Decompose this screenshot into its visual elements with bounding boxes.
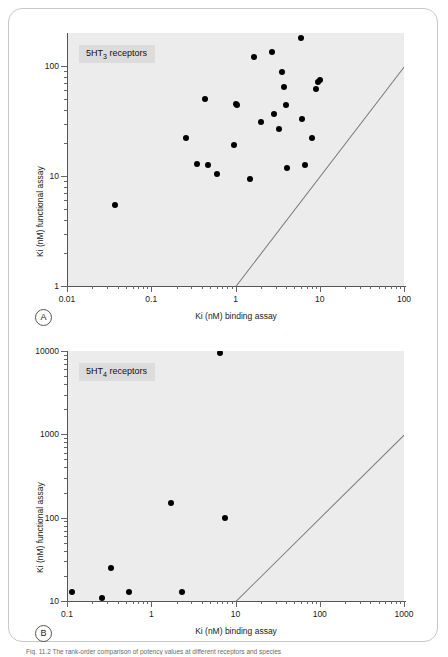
x-major-tick <box>404 601 405 607</box>
x-minor-tick <box>133 601 134 604</box>
data-point <box>217 351 223 356</box>
legend-a-prefix: 5HT <box>86 48 103 58</box>
y-minor-tick <box>64 478 67 479</box>
panel-marker-b: B <box>35 625 52 642</box>
x-minor-tick <box>276 601 277 604</box>
y-minor-tick <box>64 124 67 125</box>
x-major-tick <box>236 601 237 607</box>
x-minor-tick <box>391 601 392 604</box>
y-tick-label: 100 <box>29 513 59 523</box>
y-tick-label: 10 <box>29 596 59 606</box>
x-minor-tick <box>126 286 127 289</box>
y-minor-tick <box>64 395 67 396</box>
y-minor-tick <box>64 376 67 377</box>
y-minor-tick <box>64 364 67 365</box>
y-minor-tick <box>64 90 67 91</box>
x-minor-tick <box>147 286 148 289</box>
data-point <box>281 84 287 90</box>
data-point <box>112 202 118 208</box>
data-point <box>234 102 240 108</box>
y-minor-tick <box>64 438 67 439</box>
data-point <box>251 54 257 60</box>
y-major-tick <box>61 176 67 177</box>
x-minor-tick <box>294 286 295 289</box>
x-minor-tick <box>210 286 211 289</box>
x-minor-tick <box>133 286 134 289</box>
x-minor-tick <box>379 286 380 289</box>
data-point <box>231 142 237 148</box>
data-point <box>271 111 277 117</box>
y-minor-tick <box>64 521 67 522</box>
x-major-tick <box>67 601 68 607</box>
y-axis-line-a <box>67 33 68 287</box>
data-point <box>108 565 114 571</box>
x-minor-tick <box>391 286 392 289</box>
x-major-tick <box>151 286 152 292</box>
x-minor-tick <box>138 286 139 289</box>
y-minor-tick <box>64 209 67 210</box>
x-minor-tick <box>307 286 308 289</box>
x-minor-tick <box>370 601 371 604</box>
x-minor-tick <box>92 286 93 289</box>
x-minor-tick <box>360 601 361 604</box>
x-minor-tick <box>143 601 144 604</box>
y-minor-tick <box>64 193 67 194</box>
x-minor-tick <box>92 601 93 604</box>
x-tick-label: 100 <box>313 609 327 619</box>
data-point <box>258 119 264 125</box>
y-tick-label: 1 <box>29 281 59 291</box>
x-minor-tick <box>345 286 346 289</box>
x-minor-tick <box>222 286 223 289</box>
y-tick-label: 10 <box>29 171 59 181</box>
legend-b-prefix: 5HT <box>86 366 103 376</box>
x-minor-tick <box>227 601 228 604</box>
y-minor-tick <box>64 187 67 188</box>
x-major-tick <box>320 601 321 607</box>
x-minor-tick <box>202 601 203 604</box>
x-major-tick <box>320 286 321 292</box>
data-point <box>247 176 253 182</box>
legend-label-a: 5HT3 receptors <box>79 45 155 63</box>
y-minor-tick <box>64 384 67 385</box>
x-minor-tick <box>307 601 308 604</box>
data-point <box>179 589 185 595</box>
x-minor-tick <box>396 286 397 289</box>
y-minor-tick <box>64 526 67 527</box>
x-minor-tick <box>222 601 223 604</box>
x-tick-label: 10 <box>315 294 324 304</box>
y-axis-line-b <box>67 351 68 602</box>
y-minor-tick <box>64 200 67 201</box>
x-minor-tick <box>385 286 386 289</box>
x-minor-tick <box>202 286 203 289</box>
x-minor-tick <box>301 601 302 604</box>
x-tick-label: 100 <box>397 294 411 304</box>
x-minor-tick <box>370 286 371 289</box>
y-minor-tick <box>64 99 67 100</box>
data-point <box>222 515 228 521</box>
figure-caption: Fig. 11.2 The rank-order comparison of p… <box>26 648 426 655</box>
y-major-tick <box>61 518 67 519</box>
y-minor-tick <box>64 493 67 494</box>
data-point <box>202 96 208 102</box>
x-minor-tick <box>118 601 119 604</box>
x-minor-tick <box>232 601 233 604</box>
x-minor-tick <box>107 286 108 289</box>
x-minor-tick <box>217 601 218 604</box>
x-minor-tick <box>177 286 178 289</box>
x-tick-label: 0.01 <box>59 294 76 304</box>
x-minor-tick <box>294 601 295 604</box>
plot-area-b <box>67 351 404 601</box>
x-minor-tick <box>107 601 108 604</box>
data-point <box>313 86 319 92</box>
figure-frame: 5HT3 receptors Ki (nM) functional assay … <box>8 8 438 642</box>
y-major-tick <box>61 351 67 352</box>
x-axis-title-b: Ki (nM) binding assay <box>195 626 277 636</box>
x-minor-tick <box>400 601 401 604</box>
data-point <box>283 102 289 108</box>
y-major-tick <box>61 601 67 602</box>
x-minor-tick <box>191 286 192 289</box>
data-point <box>69 589 75 595</box>
x-minor-tick <box>345 601 346 604</box>
panel-marker-a: A <box>35 309 52 326</box>
y-minor-tick <box>64 442 67 443</box>
